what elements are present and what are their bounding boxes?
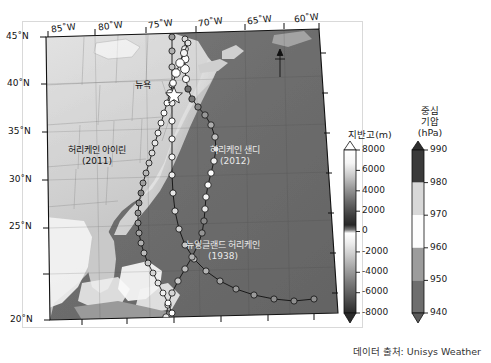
- colorbar-panel: 지반고(m) 중심 기압 (hPa): [330, 95, 450, 325]
- cb-elev-tick-6000: 6000: [362, 164, 385, 174]
- cb-elev-tick-n8000: -8000: [362, 307, 388, 317]
- colorbar-pressure-title-line1: 중심: [402, 105, 458, 116]
- cb-pres-tick-950: 950: [430, 274, 447, 284]
- cb-pres-tick-960: 960: [430, 242, 447, 252]
- lat-tick-25n: 25˚N: [9, 221, 32, 231]
- cb-pres-tick-940: 940: [430, 307, 447, 317]
- map-annotation-new-england-hurricane: 뉴잉글랜드 허리케인 (1938): [160, 240, 286, 262]
- lat-tick-30n: 30˚N: [9, 174, 32, 184]
- map-label-new-york: 뉴욕: [135, 80, 151, 91]
- lat-tick-35n: 35˚N: [8, 126, 31, 136]
- annotation-irene-name: 허리케인 아이린: [47, 145, 147, 156]
- annotation-1938-name: 뉴잉글랜드 허리케인: [160, 240, 286, 251]
- figure-root: 85˚W 80˚W 75˚W 70˚W 65˚W 60˚W 45˚N 40˚N …: [0, 0, 491, 363]
- annotation-sandy-year: (2012): [190, 156, 280, 167]
- lat-tick-20n: 20˚N: [10, 314, 33, 324]
- annotation-sandy-name: 허리케인 샌디: [190, 145, 280, 156]
- map-panel: 85˚W 80˚W 75˚W 70˚W 65˚W 60˚W 45˚N 40˚N …: [22, 21, 363, 328]
- colorbar-pressure-title-line2: 기압: [402, 116, 458, 127]
- colorbar-pressure-title-line3: (hPa): [402, 127, 458, 138]
- colorbar-pressure-title: 중심 기압 (hPa): [402, 105, 458, 138]
- annotation-1938-year: (1938): [160, 251, 286, 262]
- lat-tick-45n: 45˚N: [6, 31, 29, 41]
- lat-tick-40n: 40˚N: [7, 78, 30, 88]
- annotation-irene-year: (2011): [47, 156, 147, 167]
- data-source-caption: 데이터 출처: Unisys Weather: [353, 344, 481, 358]
- map-canvas: [22, 21, 363, 328]
- cb-elev-tick-n2000: -2000: [362, 246, 388, 256]
- cb-elev-tick-n4000: -4000: [362, 266, 388, 276]
- cb-elev-tick-8000: 8000: [362, 144, 385, 154]
- colorbar-pressure: [412, 141, 428, 323]
- cb-elev-tick-2000: 2000: [362, 205, 385, 215]
- map-basemap: [22, 21, 363, 328]
- colorbar-elevation-title: 지반고(m): [334, 129, 406, 140]
- colorbar-elevation: [344, 141, 360, 323]
- cb-pres-tick-970: 970: [430, 209, 447, 219]
- cb-pres-tick-980: 980: [430, 177, 447, 187]
- map-annotation-hurricane-irene: 허리케인 아이린 (2011): [47, 145, 147, 167]
- cb-pres-tick-990: 990: [430, 144, 447, 154]
- cb-elev-tick-n6000: -6000: [362, 286, 388, 296]
- map-annotation-hurricane-sandy: 허리케인 샌디 (2012): [190, 145, 280, 167]
- cb-elev-tick-4000: 4000: [362, 185, 385, 195]
- cb-elev-tick-0: 0: [362, 225, 368, 235]
